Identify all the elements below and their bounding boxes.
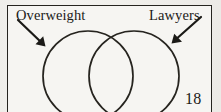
- venn-circle-right: [89, 31, 179, 112]
- page-number: 18: [185, 90, 202, 108]
- arrow-left: [18, 20, 46, 47]
- figure-page: Overweight Lawyers 18: [0, 0, 221, 112]
- venn-label-lawyers: Lawyers: [149, 8, 200, 23]
- venn-label-overweight: Overweight: [16, 8, 85, 23]
- venn-circle-left: [43, 31, 133, 112]
